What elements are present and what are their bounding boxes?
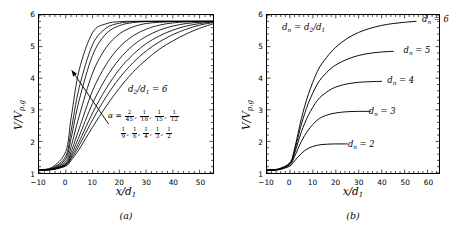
y-tick-label: 1 bbox=[27, 170, 35, 179]
figure-container: −1001020304050 123456 x/d1 V/Vp,g d2/d1 … bbox=[0, 0, 452, 235]
x-tick-label: 40 bbox=[169, 178, 178, 187]
x-tick-label: 10 bbox=[308, 178, 317, 187]
y-tick-label: 4 bbox=[27, 74, 35, 83]
x-tick-label: 50 bbox=[196, 178, 205, 187]
annotation-dn-definition: dn = d2/d1 bbox=[282, 22, 325, 33]
plot-area-b bbox=[266, 14, 440, 174]
curve-label-dn-6: dn = 6 bbox=[422, 14, 449, 25]
x-tick-label: 0 bbox=[287, 178, 292, 187]
tick-marks-b bbox=[267, 15, 439, 173]
x-tick-label: 60 bbox=[424, 178, 433, 187]
curve-label-dn-3: dn = 3 bbox=[369, 106, 396, 117]
annotation-alpha-row1: α = 245, 118, 115, 112 bbox=[108, 110, 179, 122]
x-tick-label: 40 bbox=[377, 178, 386, 187]
panel-caption-a: (a) bbox=[119, 210, 132, 221]
x-tick-label: 30 bbox=[142, 178, 151, 187]
x-tick-label: 10 bbox=[87, 178, 96, 187]
x-tick-label: 0 bbox=[63, 178, 68, 187]
y-tick-label: 2 bbox=[255, 138, 263, 147]
x-tick-label: 50 bbox=[400, 178, 409, 187]
y-tick-label: 6 bbox=[27, 10, 35, 19]
tick-marks-a bbox=[39, 15, 213, 173]
y-tick-label: 1 bbox=[255, 170, 263, 179]
x-axis-title-b: x/d1 bbox=[343, 185, 364, 199]
panel-caption-b: (b) bbox=[346, 210, 360, 221]
y-axis-title-a: V/Vp,g bbox=[12, 100, 26, 130]
y-tick-label: 5 bbox=[27, 42, 35, 51]
curve-label-dn-4: dn = 4 bbox=[387, 75, 414, 86]
panel-a: −1001020304050 123456 x/d1 V/Vp,g d2/d1 … bbox=[0, 0, 226, 235]
x-tick-label: −10 bbox=[258, 178, 274, 187]
y-axis-title-b: V/Vp,g bbox=[240, 100, 254, 130]
x-axis-title-a: x/d1 bbox=[116, 185, 137, 199]
x-tick-label: −10 bbox=[30, 178, 46, 187]
x-tick-label: 20 bbox=[331, 178, 340, 187]
y-tick-label: 3 bbox=[27, 106, 35, 115]
y-tick-label: 6 bbox=[255, 10, 263, 19]
curve-label-dn-2: dn = 2 bbox=[348, 139, 375, 150]
curve-label-dn-5: dn = 5 bbox=[404, 45, 431, 56]
annotation-ratio-a: d2/d1 = 6 bbox=[128, 84, 168, 95]
y-tick-label: 4 bbox=[255, 74, 263, 83]
y-tick-label: 3 bbox=[255, 106, 263, 115]
annotation-alpha-row2: 19, 16, 14, 13, 12 bbox=[120, 127, 172, 139]
plot-area-a bbox=[38, 14, 214, 174]
panel-b: −100102030405060 123456 x/d1 V/Vp,g dn =… bbox=[226, 0, 452, 235]
y-tick-label: 2 bbox=[27, 138, 35, 147]
y-tick-label: 5 bbox=[255, 42, 263, 51]
